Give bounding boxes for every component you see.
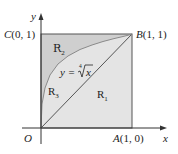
point-c-label: C(0, 1): [4, 28, 36, 41]
y-axis-arrow-icon: [39, 13, 44, 20]
diagram-canvas: y x O C(0, 1) B(1, 1) A(1, 0) R2 R3 R1 y…: [0, 0, 178, 154]
origin-label: O: [24, 132, 32, 144]
x-axis-label: x: [162, 132, 168, 144]
y-axis-label: y: [30, 10, 36, 22]
svg-text:y =: y =: [59, 66, 75, 78]
root-index: 4: [79, 63, 82, 69]
x-axis-arrow-icon: [160, 126, 167, 131]
radicand: x: [85, 66, 91, 78]
point-b-label: B(1, 1): [136, 28, 167, 41]
point-a-label: A(1, 0): [112, 132, 144, 145]
